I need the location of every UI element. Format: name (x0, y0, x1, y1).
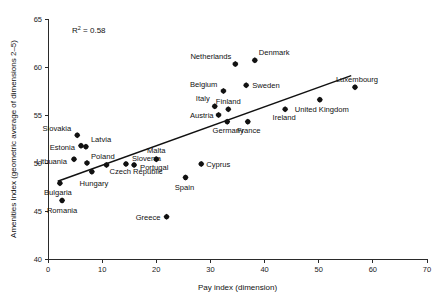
x-axis-ticks: 010203040506070 (46, 259, 431, 274)
data-point-marker (252, 57, 258, 63)
x-tick-label: 10 (98, 265, 106, 274)
x-tick-label: 70 (423, 265, 431, 274)
data-point-label: Italy (196, 94, 210, 103)
data-point-marker (232, 61, 238, 67)
data-point-marker (216, 112, 222, 118)
data-point-marker (225, 106, 231, 112)
scatter-chart: 404550556065 010203040506070 BulgariaRom… (0, 0, 444, 303)
data-point-label: Hungary (80, 179, 109, 188)
data-point-marker (183, 174, 189, 180)
data-point-label: Belgium (190, 80, 217, 89)
trend-line (58, 76, 351, 182)
data-point-label: United Kingdom (295, 105, 349, 114)
data-point-marker (74, 132, 80, 138)
data-point-label: Romania (47, 206, 78, 215)
data-point-marker (78, 143, 84, 149)
data-point-marker (245, 119, 251, 125)
data-point-marker (352, 84, 358, 90)
x-tick-label: 40 (260, 265, 268, 274)
data-point-label: Spain (175, 183, 194, 192)
data-point-label: Sweden (252, 81, 279, 90)
data-point-labels: BulgariaRomaniaLithuaniaSlovakiaEstoniaL… (36, 48, 378, 221)
data-point-label: Estonia (50, 143, 76, 152)
data-point-label: Lithuania (36, 157, 68, 166)
y-axis-ticks: 404550556065 (34, 15, 48, 264)
y-axis-title: Amenities Index (geometric average of di… (9, 40, 18, 238)
y-tick-label: 65 (34, 15, 42, 24)
data-point-marker (282, 106, 288, 112)
data-point-label: Cyprus (206, 160, 230, 169)
data-point-label: Denmark (259, 48, 290, 57)
data-point-marker (83, 144, 89, 150)
x-axis-title: Pay index (dimension) (198, 283, 277, 292)
data-point-label: Greece (136, 213, 161, 222)
data-point-marker (317, 97, 323, 103)
data-point-marker (220, 88, 226, 94)
data-point-label: Austria (190, 111, 214, 120)
data-point-marker (164, 214, 170, 220)
x-tick-label: 0 (46, 265, 50, 274)
data-point-marker (71, 156, 77, 162)
data-point-label: France (237, 126, 261, 135)
x-tick-label: 30 (206, 265, 214, 274)
data-point-label: Netherlands (190, 52, 231, 61)
y-tick-label: 60 (34, 63, 42, 72)
r-squared-value: = 0.58 (81, 26, 106, 35)
y-tick-label: 55 (34, 111, 42, 120)
data-point-label: Ireland (273, 113, 296, 122)
data-point-label: Bulgaria (44, 188, 73, 197)
x-tick-label: 60 (369, 265, 377, 274)
x-tick-label: 20 (152, 265, 160, 274)
y-tick-label: 45 (34, 207, 42, 216)
data-point-marker (59, 197, 65, 203)
data-point-label: Slovakia (43, 124, 72, 133)
data-point-marker (243, 82, 249, 88)
data-point-marker (198, 161, 204, 167)
data-point-marker (84, 160, 90, 166)
data-point-label: Luxembourg (336, 75, 378, 84)
data-point-label: Latvia (91, 135, 112, 144)
x-tick-label: 50 (315, 265, 323, 274)
data-point-label: Portugal (140, 163, 169, 172)
data-point-label: Malta (147, 146, 166, 155)
r-squared-annotation: R2 = 0.58 (72, 25, 106, 35)
y-tick-label: 40 (34, 255, 42, 264)
data-point-label: Poland (91, 152, 115, 161)
chart-canvas: 404550556065 010203040506070 BulgariaRom… (0, 0, 444, 303)
data-point-label: Slovenia (132, 154, 162, 163)
data-point-label: Finland (216, 97, 241, 106)
